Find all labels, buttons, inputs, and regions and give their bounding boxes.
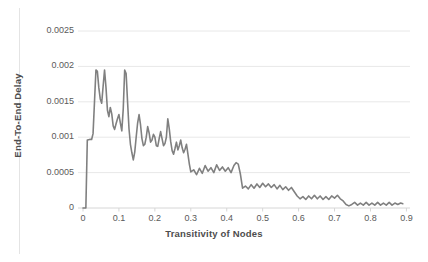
y-axis-title: End-To-End Delay (12, 61, 23, 171)
x-tick-label-7: 0.7 (315, 213, 355, 223)
x-tick-label-3: 0.3 (171, 213, 211, 223)
x-tick-label-8: 0.8 (350, 213, 390, 223)
x-tick-label-6: 0.6 (279, 213, 319, 223)
x-tick-label-5: 0.5 (243, 213, 283, 223)
x-tick-label-4: 0.4 (207, 213, 247, 223)
x-tick-label-9: 0.9 (386, 213, 426, 223)
x-axis-title: Transitivity of Nodes (0, 228, 428, 239)
y-tick-label-0: 0 (0, 202, 74, 212)
x-tick-label-2: 0.2 (135, 213, 175, 223)
y-tick-label-5: 0.0025 (0, 25, 74, 35)
x-tick-label-0: 0 (63, 213, 103, 223)
chart-container: 00.00050.0010.00150.0020.0025 00.10.20.3… (0, 0, 428, 262)
x-tick-label-1: 0.1 (99, 213, 139, 223)
